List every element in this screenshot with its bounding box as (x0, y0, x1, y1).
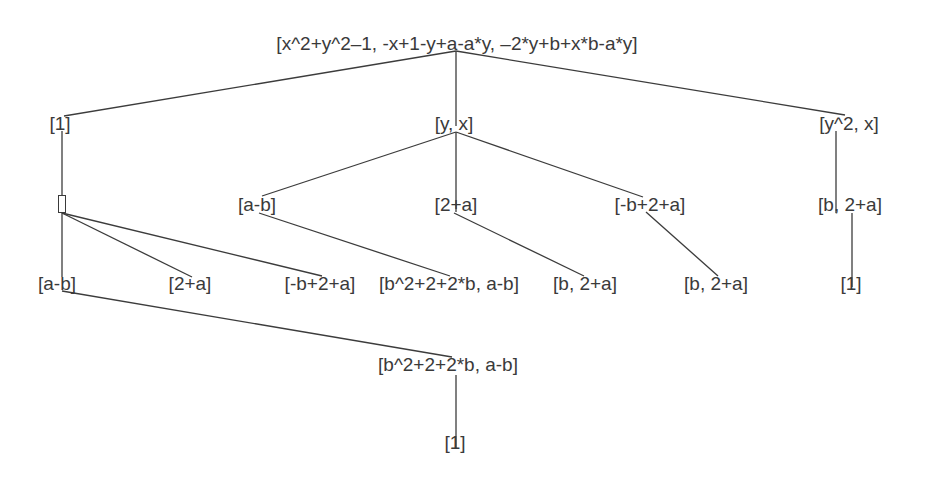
tree-edge (62, 291, 452, 357)
empty-node-box (58, 195, 66, 213)
tree-edge (259, 213, 450, 276)
tree-edge (456, 51, 845, 115)
node-y2-x: [y^2, x] (819, 114, 879, 133)
tree-edge (62, 213, 322, 276)
tree-edge (646, 212, 718, 276)
node-a-minus-b-l3: [a-b] (38, 274, 76, 293)
root-node: [x^2+y^2–1, -x+1-y+a-a*y, –2*y+b+x*b-a*y… (276, 34, 637, 53)
tree-edge (64, 51, 456, 116)
node-1-l5: [1] (444, 433, 465, 452)
node-b-2-plus-a-l3b: [b, 2+a] (684, 274, 748, 293)
node-neg-b-2-a-l3: [-b+2+a] (285, 274, 356, 293)
node-neg-b-2-a: [-b+2+a] (615, 195, 686, 214)
node-1: [1] (49, 114, 70, 133)
node-2-plus-a: [2+a] (435, 195, 478, 214)
node-a-minus-b: [a-b] (238, 195, 276, 214)
tree-edges (0, 0, 925, 483)
tree-edge (454, 213, 584, 276)
node-y-x: [y, x] (435, 114, 474, 133)
node-b2-poly-l3: [b^2+2+2*b, a-b] (379, 274, 519, 293)
tree-edge (262, 132, 456, 196)
tree-edge (456, 132, 643, 197)
node-b-2-plus-a: [b, 2+a] (818, 195, 882, 214)
node-b2-poly-l4: [b^2+2+2*b, a-b] (378, 355, 518, 374)
node-2-plus-a-l3: [2+a] (169, 274, 212, 293)
tree-edge (62, 213, 192, 277)
node-1-l3: [1] (840, 274, 861, 293)
node-b-2-plus-a-l3a: [b, 2+a] (553, 274, 617, 293)
